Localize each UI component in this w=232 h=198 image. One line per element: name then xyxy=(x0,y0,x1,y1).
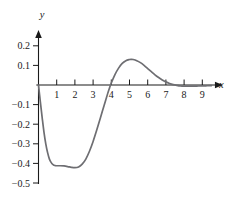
y-tick-label: −0.3 xyxy=(12,138,30,149)
y-tick-label: −0.2 xyxy=(12,119,30,130)
x-axis-tick-labels: 123456789 xyxy=(54,89,205,100)
x-tick-label: 8 xyxy=(182,89,187,100)
y-tick-label: −0.4 xyxy=(12,158,30,169)
x-axis-tick-marks xyxy=(57,80,203,86)
y-tick-label: 0.1 xyxy=(18,60,31,71)
data-curve xyxy=(39,59,212,167)
y-axis-tick-labels: 0.20.1−0.1−0.2−0.3−0.4−0.5 xyxy=(12,40,30,188)
x-tick-label: 2 xyxy=(72,89,77,100)
x-tick-label: 7 xyxy=(163,89,168,100)
y-tick-label: −0.1 xyxy=(12,99,30,110)
x-tick-label: 3 xyxy=(91,89,96,100)
x-tick-label: 9 xyxy=(200,89,205,100)
y-axis-label: y xyxy=(39,9,45,20)
y-tick-label: −0.5 xyxy=(12,178,30,189)
x-tick-label: 5 xyxy=(127,89,132,100)
x-tick-label: 6 xyxy=(145,89,150,100)
x-tick-label: 1 xyxy=(54,89,59,100)
x-axis-label: x xyxy=(218,79,224,90)
y-tick-label: 0.2 xyxy=(18,40,31,51)
y-axis-arrow-icon xyxy=(35,30,42,38)
y-axis-tick-marks xyxy=(33,46,39,183)
graph-figure: 0.20.1−0.1−0.2−0.3−0.4−0.5 123456789 x y xyxy=(0,0,232,198)
plot-canvas: 0.20.1−0.1−0.2−0.3−0.4−0.5 123456789 x y xyxy=(0,0,232,198)
